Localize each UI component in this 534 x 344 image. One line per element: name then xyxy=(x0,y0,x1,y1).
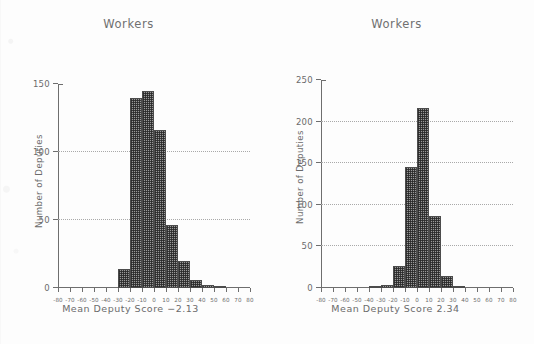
histogram-bar xyxy=(202,285,214,288)
histogram-bar xyxy=(190,280,202,288)
x-axis-tick xyxy=(405,288,406,292)
y-axis-tick-label: 250 xyxy=(296,75,313,85)
x-axis-tick xyxy=(369,288,370,292)
y-axis-tick xyxy=(53,219,58,220)
histogram-bar xyxy=(118,269,130,288)
y-axis-line-right xyxy=(321,80,322,288)
histogram-bar xyxy=(142,91,154,288)
y-axis-tick xyxy=(316,121,321,122)
y-axis-tick xyxy=(53,151,58,152)
x-axis-tick xyxy=(166,288,167,292)
chart-title-right: Workers xyxy=(259,17,534,31)
x-axis-tick xyxy=(202,288,203,292)
x-axis-tick xyxy=(142,288,143,292)
x-axis-tick xyxy=(130,288,131,292)
x-axis-tick xyxy=(333,288,334,292)
y-axis-line-left xyxy=(58,84,59,288)
x-axis-tick xyxy=(118,288,119,292)
histogram-bar xyxy=(154,130,166,288)
chart-title-left: Workers xyxy=(0,17,267,31)
y-axis-tick xyxy=(316,162,321,163)
y-axis-tick-label: 0 xyxy=(44,283,50,293)
x-axis-tick xyxy=(58,288,59,292)
x-axis-tick xyxy=(178,288,179,292)
histogram-bar xyxy=(441,276,453,288)
histogram-panel-left: Workers 050100150-80-70-60-50-40-30-20-1… xyxy=(0,0,267,344)
x-axis-title-left: Mean Deputy Score −2.13 xyxy=(0,303,267,314)
histogram-bar xyxy=(130,98,142,288)
histogram-bar xyxy=(369,286,381,288)
x-axis-tick xyxy=(417,288,418,292)
histogram-bar xyxy=(178,261,190,288)
x-axis-tick xyxy=(441,288,442,292)
histogram-bar xyxy=(429,216,441,288)
y-axis-tick-label: 50 xyxy=(302,241,313,251)
x-axis-tick xyxy=(106,288,107,292)
y-axis-tick-label: 150 xyxy=(33,79,50,89)
y-axis-top-cap xyxy=(321,80,326,81)
y-axis-tick xyxy=(316,245,321,246)
histogram-bar xyxy=(453,286,465,288)
x-axis-tick xyxy=(501,288,502,292)
y-axis-tick xyxy=(316,204,321,205)
x-axis-tick xyxy=(513,288,514,292)
x-axis-tick xyxy=(226,288,227,292)
histogram-bar xyxy=(417,108,429,288)
x-axis-tick xyxy=(154,288,155,292)
y-axis-title-left: Number of Deputies xyxy=(34,126,44,236)
histogram-bar xyxy=(214,286,226,288)
figure-two-histograms: Workers 050100150-80-70-60-50-40-30-20-1… xyxy=(0,0,534,344)
histogram-bar xyxy=(381,285,393,288)
y-axis-top-cap xyxy=(58,84,63,85)
histogram-panel-right: Workers 050100150200250-80-70-60-50-40-3… xyxy=(267,0,534,344)
x-axis-tick xyxy=(214,288,215,292)
x-axis-tick xyxy=(238,288,239,292)
x-axis-tick xyxy=(477,288,478,292)
x-axis-tick xyxy=(321,288,322,292)
x-axis-title-right: Mean Deputy Score 2.34 xyxy=(257,303,534,314)
histogram-bar xyxy=(393,266,405,288)
x-axis-tick xyxy=(429,288,430,292)
x-axis-tick xyxy=(453,288,454,292)
x-axis-tick xyxy=(381,288,382,292)
plot-area-left: 050100150-80-70-60-50-40-30-20-100102030… xyxy=(58,84,250,288)
x-axis-tick xyxy=(393,288,394,292)
x-axis-tick xyxy=(250,288,251,292)
x-axis-tick xyxy=(94,288,95,292)
x-axis-tick xyxy=(345,288,346,292)
x-axis-tick xyxy=(357,288,358,292)
x-axis-tick xyxy=(70,288,71,292)
x-axis-tick xyxy=(190,288,191,292)
y-axis-title-right: Number of Deputies xyxy=(295,122,305,232)
plot-area-right: 050100150200250-80-70-60-50-40-30-20-100… xyxy=(321,80,513,288)
histogram-bar xyxy=(166,225,178,288)
histogram-bar xyxy=(405,167,417,288)
x-axis-tick xyxy=(82,288,83,292)
y-axis-tick-label: 0 xyxy=(307,283,313,293)
x-axis-tick xyxy=(465,288,466,292)
x-axis-tick xyxy=(489,288,490,292)
